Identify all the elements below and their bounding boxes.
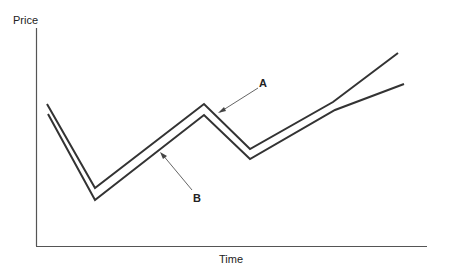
- arrowhead-a-icon: [218, 107, 226, 113]
- x-axis-label: Time: [219, 253, 243, 265]
- y-axis-label: Price: [13, 14, 38, 26]
- arrowhead-b-icon: [160, 152, 167, 159]
- chart-canvas: Price Time A B: [0, 0, 450, 275]
- annotation-a: A: [259, 77, 267, 89]
- arrow-b: [162, 154, 192, 190]
- series-a-line: [47, 53, 398, 188]
- annotation-b: B: [193, 192, 201, 204]
- arrow-a: [220, 88, 258, 112]
